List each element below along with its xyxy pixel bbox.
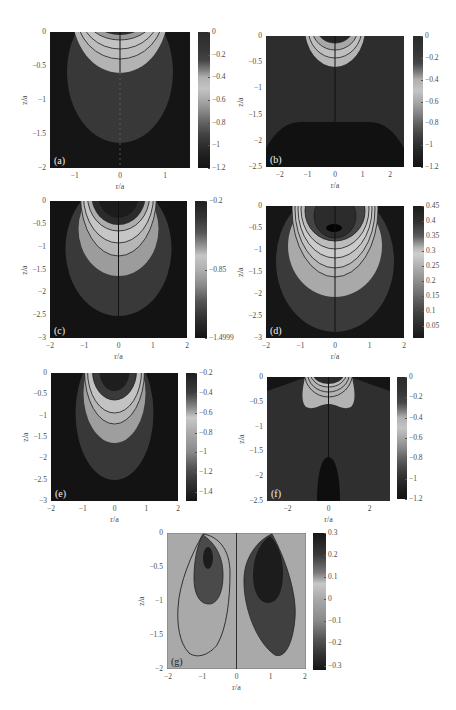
- x-tick-label: 0: [333, 342, 337, 350]
- x-tick-label: 2: [176, 505, 180, 513]
- colorbar-tick-mark: [205, 338, 207, 339]
- colorbar-tick-mark: [324, 555, 326, 556]
- colorbar-tick-label: −0.6: [212, 96, 226, 104]
- colorbar-tick-label: −1: [425, 141, 433, 149]
- panel-g: (g) −2−10120−0.5−1−1.5−2r/az/a0.30.20.10…: [167, 533, 306, 669]
- x-axis-label: r/a: [331, 353, 339, 361]
- x-tick-label: −1: [80, 342, 88, 350]
- panel-e: (e) −2−10120−0.5−1−1.5−2−2.5−3r/az/a−0.2…: [51, 373, 178, 501]
- colorbar-tick-mark: [421, 123, 423, 124]
- panel-a: (a) −1010−0.5−1−1.5−2r/az/a0−0.2−0.4−0.6…: [50, 32, 190, 168]
- colorbar-tick-mark: [405, 479, 407, 480]
- y-tick-label: −1.5: [149, 631, 163, 639]
- colorbar-tick-mark: [405, 458, 407, 459]
- x-axis-label: r/a: [324, 516, 332, 524]
- y-tick-label: 0: [159, 529, 163, 537]
- colorbar-tick-label: 0: [212, 28, 216, 36]
- colorbar-tick-label: −0.2: [209, 197, 223, 205]
- colorbar-tick-mark: [195, 433, 197, 434]
- panel-label: (b): [270, 155, 282, 165]
- colorbar-tick-mark: [422, 221, 424, 222]
- x-tick-label: 1: [361, 171, 365, 179]
- y-tick-label: −0.5: [149, 563, 163, 571]
- y-tick-label: 0: [258, 202, 262, 210]
- y-tick-label: −0.5: [248, 58, 262, 66]
- y-tick-label: −1: [38, 96, 46, 104]
- colorbar-tick-mark: [208, 100, 210, 101]
- colorbar-tick-mark: [405, 438, 407, 439]
- y-tick-label: −0.5: [248, 224, 262, 232]
- colorbar-tick-mark: [422, 266, 424, 267]
- y-tick-label: −2.5: [33, 476, 47, 484]
- y-axis-label: z/a: [21, 95, 29, 104]
- y-tick-label: −3: [254, 334, 262, 342]
- colorbar-tick-mark: [324, 666, 326, 667]
- contour-plot-d: [266, 206, 404, 338]
- y-tick-label: −1: [155, 597, 163, 605]
- x-tick-label: 0: [117, 342, 121, 350]
- colorbar-tick-label: −0.6: [199, 409, 213, 417]
- colorbar-tick-label: −0.2: [328, 639, 342, 647]
- y-tick-label: 0: [42, 28, 46, 36]
- colorbar-tick-label: 0.15: [426, 292, 439, 300]
- colorbar-tick-label: −0.4: [212, 73, 226, 81]
- x-tick-label: −2: [284, 505, 292, 513]
- colorbar-tick-mark: [195, 393, 197, 394]
- x-tick-label: 0: [235, 673, 239, 681]
- y-axis-label: z/a: [22, 432, 30, 441]
- colorbar-tick-mark: [195, 413, 197, 414]
- x-axis-label: r/a: [331, 182, 339, 190]
- colorbar-tick-label: 0: [409, 373, 413, 381]
- x-tick-label: −1: [79, 505, 87, 513]
- x-tick-label: 1: [163, 172, 167, 180]
- colorbar-tick-label: −0.6: [425, 98, 439, 106]
- colorbar-tick-label: 0.45: [426, 202, 439, 210]
- colorbar-tick-label: −1.2: [425, 163, 439, 171]
- colorbar-tick-label: −1: [199, 448, 207, 456]
- colorbar-tick-mark: [208, 123, 210, 124]
- x-tick-label: 1: [368, 342, 372, 350]
- contour-plot-b: [266, 36, 404, 167]
- y-tick-label: −2: [255, 472, 263, 480]
- y-tick-label: 0: [258, 32, 262, 40]
- colorbar-tick-label: −0.4: [425, 76, 439, 84]
- y-tick-label: 0: [43, 369, 47, 377]
- panel-d: (d) −2−10120−0.5−1−1.5−2−2.5−3r/az/a0.45…: [266, 206, 404, 338]
- colorbar-tick-mark: [205, 270, 207, 271]
- colorbar-tick-label: 0: [425, 32, 429, 40]
- colorbar-tick-label: −0.2: [425, 54, 439, 62]
- x-tick-label: 1: [151, 342, 155, 350]
- colorbar-tick-label: −0.8: [199, 429, 213, 437]
- x-tick-label: 2: [185, 342, 189, 350]
- colorbar-tick-mark: [208, 32, 210, 33]
- x-tick-label: 2: [402, 342, 406, 350]
- colorbar-tick-label: 0.1: [328, 573, 337, 581]
- colorbar-tick-mark: [422, 311, 424, 312]
- x-tick-label: −1: [71, 172, 79, 180]
- y-axis-label: z/a: [237, 267, 245, 276]
- y-tick-label: −2: [38, 288, 46, 296]
- y-tick-label: −1.5: [248, 268, 262, 276]
- contour-plot-e: [51, 373, 178, 501]
- x-axis-label: r/a: [232, 684, 240, 692]
- colorbar-tick-mark: [195, 452, 197, 453]
- colorbar-tick-label: 0.3: [426, 247, 435, 255]
- colorbar-tick-label: −0.2: [199, 369, 213, 377]
- x-tick-label: 0: [118, 172, 122, 180]
- colorbar-tick-label: 0.05: [426, 322, 439, 330]
- colorbar-tick-mark: [421, 58, 423, 59]
- x-axis-label: r/a: [110, 516, 118, 524]
- x-tick-label: 0: [113, 505, 117, 513]
- x-tick-label: −1: [297, 342, 305, 350]
- y-axis-label: z/a: [237, 97, 245, 106]
- colorbar-tick-mark: [422, 296, 424, 297]
- y-tick-label: −1: [38, 243, 46, 251]
- colorbar-tick-label: −1.4: [199, 488, 213, 496]
- y-tick-label: −1: [255, 423, 263, 431]
- colorbar-tick-mark: [324, 621, 326, 622]
- colorbar-tick-mark: [422, 326, 424, 327]
- y-tick-label: −1.5: [32, 130, 46, 138]
- colorbar-tick-mark: [208, 55, 210, 56]
- colorbar-tick-mark: [422, 251, 424, 252]
- colorbar-tick-mark: [421, 145, 423, 146]
